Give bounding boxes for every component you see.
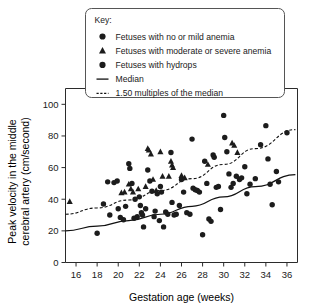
data-point-triangle [67,198,73,204]
data-point-circle [161,224,166,229]
data-point-circle [269,202,274,207]
data-point-circle [189,136,194,141]
data-point-circle [242,164,247,169]
x-axis-title: Gestation age (weeks) [129,291,234,303]
y-tick-label: 20 [48,225,59,236]
x-tick-label: 26 [176,269,187,280]
data-point-triangle [168,158,174,164]
data-point-circle [152,208,157,213]
data-point-circle [265,156,270,161]
data-point-circle [105,179,110,184]
y-tick-label: 100 [43,99,59,110]
y-tick-label: 60 [48,162,59,173]
data-point-circle [157,218,162,223]
data-point-circle [239,175,244,180]
legend-entry-label: 1.50 multiples of the median [116,88,224,98]
data-point-circle [121,217,126,222]
data-point-circle [149,189,154,194]
data-point-circle [177,203,182,208]
data-point-circle [208,219,213,224]
data-point-circle [200,232,205,237]
legend-entry-label: Fetuses with hydrops [116,60,197,70]
y-tick-label: 40 [48,194,59,205]
data-point-circle [244,191,249,196]
data-point-circle [174,212,179,217]
data-point-circle [276,179,281,184]
data-point-circle [94,231,99,236]
data-point-circle [202,159,207,164]
median-curve [66,175,296,231]
data-point-circle [226,171,231,176]
data-point-circle [165,212,170,217]
data-point-circle [138,203,143,208]
data-point-circle [224,149,229,154]
x-tick-label: 16 [71,269,82,280]
data-point-circle [141,224,146,229]
data-point-triangle [135,186,141,192]
data-point-circle [116,206,121,211]
data-point-circle [101,201,106,206]
legend-entry-label: Fetuses with no or mild anemia [116,32,235,42]
data-point-circle [211,155,216,160]
data-point-circle [126,161,131,166]
data-point-circle [218,207,223,212]
data-point-circle [253,176,258,181]
data-point-circle [137,194,142,199]
data-point-circle [267,182,272,187]
data-point-circle [114,178,119,183]
x-tick-label: 18 [92,269,103,280]
y-axis-title-line: cerebral artery (cm/second) [19,117,31,245]
data-point-triangle [234,149,240,155]
data-point-circle [140,212,145,217]
data-point-circle [158,184,163,189]
data-point-circle [204,181,209,186]
y-axis-title-line: Peak velocity in the middle [6,119,18,243]
data-point-circle [284,130,289,135]
y-tick-label: 0 [53,257,58,268]
data-point-circle [216,184,221,189]
data-point-circle [187,212,192,217]
data-point-triangle [157,148,163,154]
data-point-circle [143,206,148,211]
data-point-circle [181,189,186,194]
legend-marker-circle [99,33,105,39]
data-point-circle [221,113,226,118]
data-point-triangle [166,173,172,179]
legend-entry-label: Fetuses with moderate or severe anemia [116,46,272,56]
legend-title: Key: [95,15,112,25]
data-point-circle [169,200,174,205]
data-point-circle [247,182,252,187]
data-point-circle [123,204,128,209]
data-point-circle [274,169,279,174]
data-point-triangle [159,173,165,179]
data-point-circle [135,214,140,219]
x-tick-label: 30 [218,269,229,280]
data-point-triangle [143,183,149,189]
y-tick-label: 80 [48,130,59,141]
figure-container: 0204060801001618202224262830323436Gestat… [0,0,310,307]
data-point-circle [197,189,202,194]
data-point-circle [222,135,227,140]
x-tick-label: 34 [261,269,272,280]
data-point-circle [263,123,268,128]
data-point-circle [258,142,263,147]
data-point-circle [151,214,156,219]
data-point-circle [107,212,112,217]
data-point-circle [145,167,150,172]
scatter-chart: 0204060801001618202224262830323436Gestat… [0,0,310,307]
x-tick-label: 24 [155,269,166,280]
data-point-circle [159,189,164,194]
x-tick-label: 32 [239,269,250,280]
data-point-circle [230,181,235,186]
data-point-circle [127,166,132,171]
legend-marker-circle [99,62,105,68]
x-tick-label: 22 [134,269,145,280]
x-tick-label: 36 [282,269,293,280]
legend-entry-label: Median [116,74,144,84]
x-tick-label: 28 [197,269,208,280]
x-tick-label: 20 [113,269,124,280]
data-point-circle [168,150,173,155]
